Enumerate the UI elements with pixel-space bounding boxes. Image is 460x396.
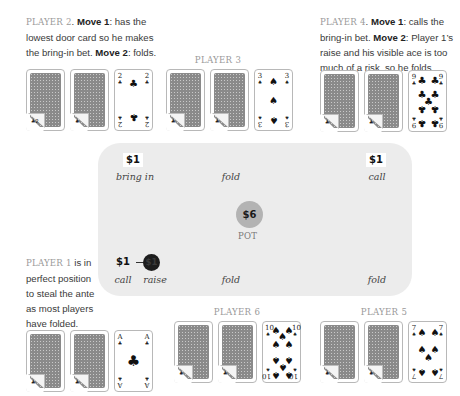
club-pip-icon: ♣ bbox=[418, 104, 427, 114]
peek-corner-icon: ♣ bbox=[75, 380, 79, 385]
club-pip-icon: ♣ bbox=[418, 76, 427, 86]
peek-corner-icon: ♠ bbox=[75, 119, 79, 124]
player-5-upcard: 7♠ 7♠ 7♠ 7♠ ♠ ♠ ♠ ♠ ♠ ♠ ♠ bbox=[408, 321, 447, 383]
peek-corner-icon: ♠ bbox=[325, 371, 329, 376]
player-1-raise-action: raise bbox=[140, 274, 170, 285]
player-1-call-amount: $1 bbox=[113, 255, 133, 269]
player-2-action: bring in bbox=[110, 171, 160, 182]
spade-pip-icon: ♠ bbox=[431, 328, 440, 338]
player-1-hole-card-2: ♣ bbox=[70, 330, 109, 392]
player-5-label: PLAYER 5 bbox=[352, 307, 416, 317]
spade-pip-icon: ♠ bbox=[272, 370, 281, 380]
peek-corner-icon: ♣ bbox=[325, 120, 329, 125]
peek-corner-icon: ♣2 bbox=[31, 119, 39, 124]
peek-corner-icon: ♣ bbox=[215, 119, 219, 124]
peek-corner-icon: ♣ bbox=[223, 371, 227, 376]
player-3-hole-card-1: ♣ bbox=[166, 69, 205, 131]
player-4-hole-card-2: ♣ bbox=[364, 70, 403, 132]
player-1-raise-chip: $1 bbox=[143, 254, 160, 271]
player-2-hole-card-1: ♣2 bbox=[26, 69, 65, 131]
spade-pip-icon: ♠ bbox=[418, 328, 427, 338]
player-4-description: PLAYER 4. Move 1: calls the bring-in bet… bbox=[320, 14, 454, 75]
player-5-hole-card-2: ♠ bbox=[364, 321, 403, 383]
club-pip-icon: ♣ bbox=[431, 118, 440, 128]
club-pip-icon: ♣ bbox=[418, 118, 427, 128]
club-pip-icon: ♣ bbox=[431, 76, 440, 86]
player-2-upcard: 2♣ 2♣ 2♣ 2♣ ♣ ♣ bbox=[114, 69, 153, 131]
player-2-hole-card-2: ♠ bbox=[70, 69, 109, 131]
player-4-hole-card-1: ♣ bbox=[320, 70, 359, 132]
player-4-upcard: 9♣ 9♣ 9♣ 9♣ ♣ ♣ ♣ ♣ ♣ ♣ ♣ ♣ ♣ bbox=[408, 70, 447, 132]
spade-pip-icon: ♠ bbox=[285, 370, 294, 380]
player-1-description: PLAYER 1 is in perfect position to steal… bbox=[26, 255, 96, 331]
player-4-bet-amount: $1 bbox=[366, 153, 386, 167]
peek-corner-icon: ♣ bbox=[171, 119, 175, 124]
peek-corner-icon: ♠ bbox=[369, 371, 373, 376]
player-2-bet-amount: $1 bbox=[123, 153, 143, 167]
player-6-action: fold bbox=[216, 274, 246, 285]
player-6-label: PLAYER 6 bbox=[205, 307, 269, 317]
player-3-hole-card-2: ♣ bbox=[210, 69, 249, 131]
spade-pip-icon: ♠ bbox=[285, 340, 294, 350]
pot-label: POT bbox=[238, 231, 257, 241]
spade-pip-icon: ♠ bbox=[431, 367, 440, 377]
player-3-upcard: 3♠ 3♠ 3♠ 3♠ ♠ ♠ ♠ bbox=[254, 69, 293, 131]
player-5-hole-card-1: ♠ bbox=[320, 321, 359, 383]
peek-corner-icon: ♣ bbox=[31, 380, 35, 385]
player-4-label: PLAYER 4 bbox=[320, 17, 366, 27]
spade-pip-icon: ♠ bbox=[269, 77, 278, 87]
club-pip-icon: ♣ bbox=[129, 112, 138, 122]
player-6-upcard: 10♠ 10♠ 10♠ 10♠ ♠ ♠ ♠ ♠ ♠ ♠ ♠ ♠ ♠ ♠ bbox=[262, 321, 301, 383]
player-5-action: fold bbox=[362, 274, 392, 285]
player-3-label: PLAYER 3 bbox=[186, 55, 250, 65]
player-2-label: PLAYER 2 bbox=[26, 17, 72, 27]
spade-pip-icon: ♠ bbox=[272, 340, 281, 350]
spade-pip-icon: ♠ bbox=[418, 367, 427, 377]
player-6-hole-card-1: ♠ bbox=[174, 321, 213, 383]
player-3-action: fold bbox=[216, 171, 246, 182]
peek-corner-icon: ♣ bbox=[369, 120, 373, 125]
club-pip-icon: ♣ bbox=[129, 79, 138, 89]
club-pip-icon: ♣ bbox=[431, 104, 440, 114]
player-2-description: PLAYER 2. Move 1: has the lowest door ca… bbox=[26, 14, 158, 60]
player-6-hole-card-2: ♣ bbox=[218, 321, 257, 383]
peek-corner-icon: ♠ bbox=[179, 371, 183, 376]
player-1-hole-card-1: ♣ bbox=[26, 330, 65, 392]
player-4-action: call bbox=[362, 171, 392, 182]
pot-chip: $6 bbox=[236, 201, 263, 228]
spade-pip-icon: ♠ bbox=[269, 115, 278, 125]
spade-pip-icon: ♠ bbox=[424, 353, 433, 363]
spade-pip-icon: ♠ bbox=[269, 96, 278, 106]
poker-table: $1 bring in fold $1 call $6 POT $1 $1 ca… bbox=[98, 143, 412, 296]
club-pip-icon: ♣ bbox=[127, 354, 140, 369]
player-1-upcard: A♣ A♣ A♣ A♣ ♣ bbox=[114, 330, 153, 392]
player-1-label: PLAYER 1 bbox=[26, 258, 72, 268]
player-1-call-action: call bbox=[110, 274, 136, 285]
